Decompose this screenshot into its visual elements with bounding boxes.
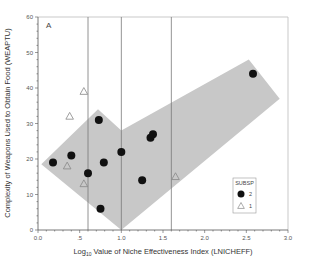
x-axis-label-rest: Value of Niche Effectiveness Index (LNIC…	[92, 247, 254, 256]
data-point-circle	[117, 148, 125, 156]
data-point-circle	[138, 176, 146, 184]
y-axis-label: Complexity of Weapons Used to Obtain Foo…	[3, 28, 12, 218]
legend-entry-label: 2	[249, 191, 252, 197]
data-point-circle	[49, 159, 57, 167]
data-point-triangle	[80, 88, 88, 95]
legend: SUBSP21	[233, 178, 256, 213]
data-point-circle	[149, 130, 157, 138]
y-tick-label: 60	[26, 14, 33, 20]
y-tick-label: 20	[26, 156, 33, 162]
data-point-circle	[95, 116, 103, 124]
scatter-chart: 0.0.51.01.52.02.53.00102030405060 A Comp…	[0, 0, 310, 269]
x-tick-label: 2.5	[242, 235, 251, 241]
legend-entry-label: 1	[249, 203, 252, 209]
x-tick-label: 1.0	[117, 235, 126, 241]
y-tick-label: 10	[26, 192, 33, 198]
y-tick-label: 50	[26, 50, 33, 56]
x-tick-label: 1.5	[159, 235, 168, 241]
y-tick-label: 0	[30, 227, 34, 233]
data-point-circle	[84, 169, 92, 177]
data-point-triangle	[66, 112, 74, 119]
x-tick-label: 3.0	[284, 235, 293, 241]
y-tick-label: 40	[26, 85, 33, 91]
legend-title: SUBSP	[235, 180, 254, 186]
y-tick-label: 30	[26, 121, 33, 127]
data-point-circle	[97, 205, 105, 213]
x-tick-label: 2.0	[200, 235, 209, 241]
data-point-circle	[67, 151, 75, 159]
panel-label: A	[46, 21, 52, 30]
x-axis-label-prefix: Log	[73, 247, 86, 256]
x-tick-label: .5	[77, 235, 83, 241]
x-axis-label: Log10 Value of Niche Effectiveness Index…	[73, 247, 253, 257]
data-point-circle	[100, 159, 108, 167]
x-tick-label: 0.0	[34, 235, 43, 241]
data-point-circle	[249, 70, 257, 78]
legend-circle-icon	[238, 191, 245, 198]
